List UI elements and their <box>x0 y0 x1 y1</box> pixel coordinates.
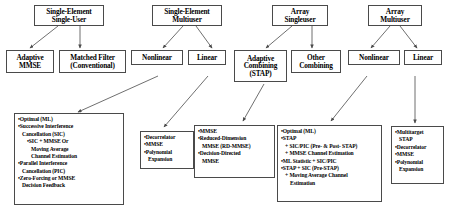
node-line: Linear <box>197 54 217 61</box>
node-line: (STAP) <box>249 70 271 77</box>
edge-sem-to-nonlinear <box>163 26 183 48</box>
edge-adaptive-combining-to-detail <box>243 84 264 121</box>
detail-line: •Reduced-Dimension <box>198 135 272 142</box>
detail-array-multiuser-nonlinear[interactable]: •Optimal (ML) •STAP + SIC/PIC (Pre- & Po… <box>277 125 382 202</box>
edge-am-to-linear <box>400 26 417 48</box>
detail-line: •MMSE <box>395 151 441 158</box>
node-line: Singleuser <box>285 16 316 23</box>
mid-nonlinear-array-multiuser[interactable]: Nonlinear <box>348 50 400 65</box>
node-line: Single-User <box>52 16 86 23</box>
detail-line: •Multitarget <box>395 129 441 136</box>
node-line: Nonlinear <box>142 54 172 61</box>
detail-line: Channel Estimation <box>18 153 121 160</box>
mid-other-combining[interactable]: Other Combining <box>291 50 341 73</box>
detail-line: Estimation <box>281 180 379 187</box>
root-single-element-single-user[interactable]: Single-Element Single-User <box>34 5 104 26</box>
detail-line: + SIC/PIC (Pre- & Post- STAP) <box>281 143 379 150</box>
node-line: Multiuser <box>172 16 201 23</box>
detail-line: Expansion <box>144 156 191 163</box>
detail-line: •Optimal (ML) <box>18 116 121 123</box>
detail-line: •Polynomial <box>395 159 441 166</box>
node-line: Combining <box>299 62 333 69</box>
detail-line: •SIC + MMSE Or <box>18 138 121 145</box>
root-single-element-multiuser[interactable]: Single-Element Multiuser <box>152 5 222 26</box>
detail-line: •STAP + SIC (Pre-STAP) <box>281 165 379 172</box>
edge-am-to-nonlinear <box>371 26 390 48</box>
node-line: (Conventional) <box>70 62 115 69</box>
detail-line: Moving Average <box>18 146 121 153</box>
detail-line: MMSE (RD-MMSE) <box>198 143 272 150</box>
mid-adaptive-combining-stap[interactable]: Adaptive Combining (STAP) <box>234 50 287 82</box>
detail-line: •MMSE <box>144 141 191 148</box>
detail-line: •Optimal (ML) <box>281 128 379 135</box>
detail-array-multiuser-linear[interactable]: •Multitarget STAP •Decorrelator •MMSE •P… <box>391 126 444 184</box>
detail-line: •Decorrelator <box>144 134 191 141</box>
edge-am-nonlinear-to-detail <box>331 76 367 121</box>
detail-line: + MMSE Channel Estimation <box>281 150 379 157</box>
mid-linear-array-multiuser[interactable]: Linear <box>404 50 442 65</box>
root-array-singleuser[interactable]: Array Singleuser <box>272 5 328 26</box>
taxonomy-diagram: Single-Element Single-User Single-Elemen… <box>0 0 451 209</box>
detail-line: •Polynomial <box>144 149 191 156</box>
node-line: Multiuser <box>380 16 409 23</box>
edge-sem-to-linear <box>196 26 212 48</box>
mid-nonlinear-single-element-multiuser[interactable]: Nonlinear <box>131 50 183 65</box>
mid-adaptive-mmse[interactable]: Adaptive MMSE <box>6 50 54 73</box>
detail-line: •Decorrelator <box>395 144 441 151</box>
detail-line: •Parallel Interference <box>18 160 121 167</box>
edge-sem-linear-to-detail <box>164 76 208 127</box>
detail-line: + Moving Average Channel <box>281 172 379 179</box>
detail-single-element-multiuser-nonlinear[interactable]: •Optimal (ML) •Successive Interference C… <box>14 113 124 205</box>
detail-line: •Successive Interference <box>18 123 121 130</box>
detail-line: •MMSE <box>198 128 272 135</box>
detail-line: •Decision-Directed <box>198 150 272 157</box>
detail-line: •ML Statistic + SIC/PIC <box>281 158 379 165</box>
node-line: Linear <box>413 54 433 61</box>
detail-line: Decision Feedback <box>18 182 121 189</box>
detail-line: Cancellation (PIC) <box>18 168 121 175</box>
mid-matched-filter[interactable]: Matched Filter (Conventional) <box>59 50 126 73</box>
edge-as-to-adaptive-combining <box>266 26 292 48</box>
detail-line: Cancellation (SIC) <box>18 131 121 138</box>
detail-single-element-multiuser-linear[interactable]: •Decorrelator •MMSE •Polynomial Expansio… <box>140 131 194 169</box>
node-line: Nonlinear <box>359 54 389 61</box>
mid-linear-single-element-multiuser[interactable]: Linear <box>188 50 226 65</box>
edge-sem-nonlinear-to-detail <box>78 76 158 112</box>
edge-sesu-to-adaptive-mmse <box>30 26 58 48</box>
node-line: MMSE <box>19 62 41 69</box>
detail-line: •STAP <box>281 135 379 142</box>
detail-line: MMSE <box>198 158 272 165</box>
detail-adaptive-combining-stap[interactable]: •MMSE •Reduced-Dimension MMSE (RD-MMSE) … <box>194 125 275 178</box>
root-array-multiuser[interactable]: Array Multiuser <box>368 5 422 26</box>
detail-line: STAP <box>395 136 441 143</box>
detail-line: Expansion <box>395 166 441 173</box>
detail-line: •Zero-Forcing or MMSE <box>18 175 121 182</box>
